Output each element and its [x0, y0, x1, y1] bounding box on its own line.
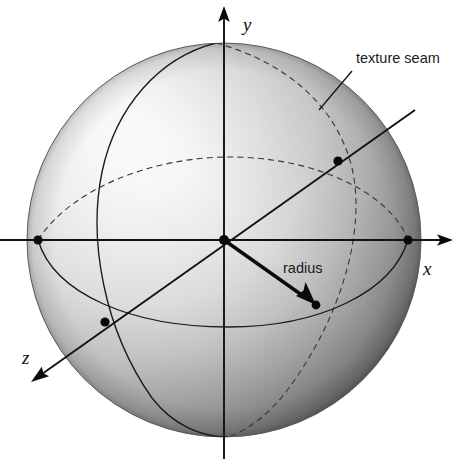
z-axis-arrowhead [31, 367, 49, 382]
z-axis-equator-dot [100, 317, 109, 326]
seam-intersection-dot [333, 156, 342, 165]
radius-endpoint-dot [312, 301, 321, 310]
texture-seam-label: texture seam [356, 50, 440, 66]
sphere-coordinate-diagram: y x z radius texture seam [0, 0, 457, 459]
x-axis-label: x [422, 258, 432, 279]
x-axis-sphere-dot [403, 235, 412, 244]
z-axis-label: z [21, 347, 30, 368]
origin-dot [219, 235, 229, 245]
y-axis-label: y [241, 14, 252, 35]
diagram-canvas: y x z radius texture seam [0, 0, 457, 459]
radius-label: radius [283, 260, 323, 276]
negative-x-sphere-dot [33, 235, 42, 244]
